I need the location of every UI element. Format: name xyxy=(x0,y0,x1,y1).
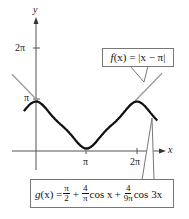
g-callout-pointer xyxy=(142,118,154,180)
term2-cos: cos x xyxy=(90,188,113,200)
y-axis-arrow-icon xyxy=(34,17,39,24)
y-axis-label: y xyxy=(33,4,37,15)
plus-2: + xyxy=(114,188,120,200)
x-tick-label-pi: π xyxy=(83,156,88,167)
term1-den: 2 xyxy=(64,194,69,203)
f-paren: (x) xyxy=(114,51,127,63)
term2-den: π xyxy=(83,194,88,203)
term3-den: 9π xyxy=(124,194,133,203)
f-line xyxy=(12,73,162,151)
x-tick-label-2pi: 2π xyxy=(130,156,140,167)
g-curve xyxy=(24,102,158,149)
f-callout-pointer xyxy=(130,66,148,82)
x-axis-arrow-icon xyxy=(159,149,166,154)
x-axis-label: x xyxy=(168,144,172,155)
y-tick-label-2pi: 2π xyxy=(15,42,25,53)
term2-fraction: 4π xyxy=(82,184,89,203)
term1-fraction: π2 xyxy=(63,184,70,203)
f-function-callout: f(x) = |x − π| xyxy=(102,48,174,67)
y-tick-label-pi: π xyxy=(24,92,29,103)
g-function-callout: g(x) = π2 + 4π cos x + 49π cos 3x xyxy=(30,179,174,208)
plus-1: + xyxy=(73,188,79,200)
f-equation: = |x − π| xyxy=(127,51,166,63)
term3-cos: cos 3x xyxy=(134,188,162,200)
term3-fraction: 49π xyxy=(124,184,133,203)
g-paren: (x) = xyxy=(41,188,63,200)
